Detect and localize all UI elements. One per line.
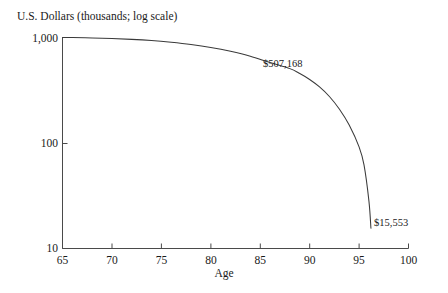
x-axis-ticks	[63, 244, 409, 249]
y-tick-label-1000: 1,000	[18, 33, 58, 45]
x-tick-label-85: 85	[240, 255, 280, 267]
x-axis-title: Age	[0, 268, 448, 280]
y-axis-ticks	[63, 38, 68, 249]
portfolio-balance-curve	[63, 38, 371, 229]
y-tick-label-10: 10	[18, 243, 58, 255]
chart-plot-area	[0, 0, 448, 293]
x-tick-label-95: 95	[339, 255, 379, 267]
y-tick-label-100: 100	[18, 138, 58, 150]
axis-lines	[63, 38, 409, 249]
chart-container: U.S. Dollars (thousands; log scale) 1,00…	[0, 0, 448, 293]
annotation-final-value: $15,553	[374, 218, 408, 229]
x-tick-label-75: 75	[141, 255, 181, 267]
annotation-peak-value: $507,168	[263, 59, 302, 70]
x-tick-label-100: 100	[389, 255, 429, 267]
x-tick-label-90: 90	[290, 255, 330, 267]
x-tick-label-65: 65	[43, 255, 83, 267]
x-tick-label-80: 80	[191, 255, 231, 267]
x-tick-label-70: 70	[92, 255, 132, 267]
